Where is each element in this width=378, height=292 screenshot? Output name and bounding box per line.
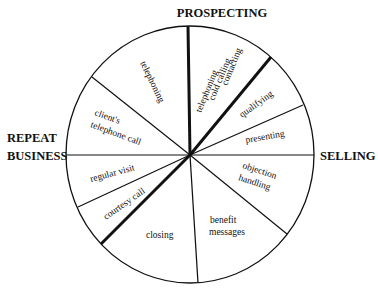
- phase-prospecting: PROSPECTING: [177, 6, 268, 20]
- segment-closing: closing: [146, 230, 174, 240]
- segment-messages: messages: [209, 227, 245, 237]
- phase-repeat-line1: REPEAT: [7, 131, 57, 145]
- phase-selling: SELLING: [320, 149, 376, 163]
- divider-objection-benefit: [190, 155, 287, 234]
- sales-cycle-diagram: PROSPECTING SELLING REPEAT BUSINESS tele…: [0, 0, 378, 292]
- segment-telephoning: telephoning: [138, 59, 167, 104]
- divider-prospecting-start: [188, 26, 190, 155]
- segment-benefit: benefit: [210, 215, 237, 225]
- divider-benefit-closing: [190, 155, 198, 283]
- segment-regular-visit: regular visit: [89, 162, 136, 184]
- phase-repeat-line2: BUSINESS: [7, 149, 67, 163]
- segment-presenting: presenting: [245, 128, 286, 145]
